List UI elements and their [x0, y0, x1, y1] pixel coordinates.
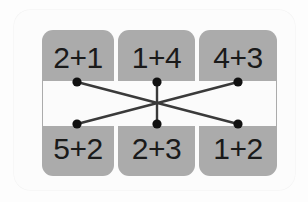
connector-dot[interactable]: [233, 119, 242, 128]
worksheet: 2+1 1+4 4+3 5+2 2+3 1+2: [0, 0, 308, 202]
connector-dot[interactable]: [72, 119, 81, 128]
connector-lines: [77, 82, 238, 124]
connector-layer: [0, 0, 308, 202]
connector-dot[interactable]: [233, 77, 242, 86]
connector-dot[interactable]: [72, 77, 81, 86]
connector-dot[interactable]: [152, 77, 161, 86]
connector-dot[interactable]: [152, 119, 161, 128]
